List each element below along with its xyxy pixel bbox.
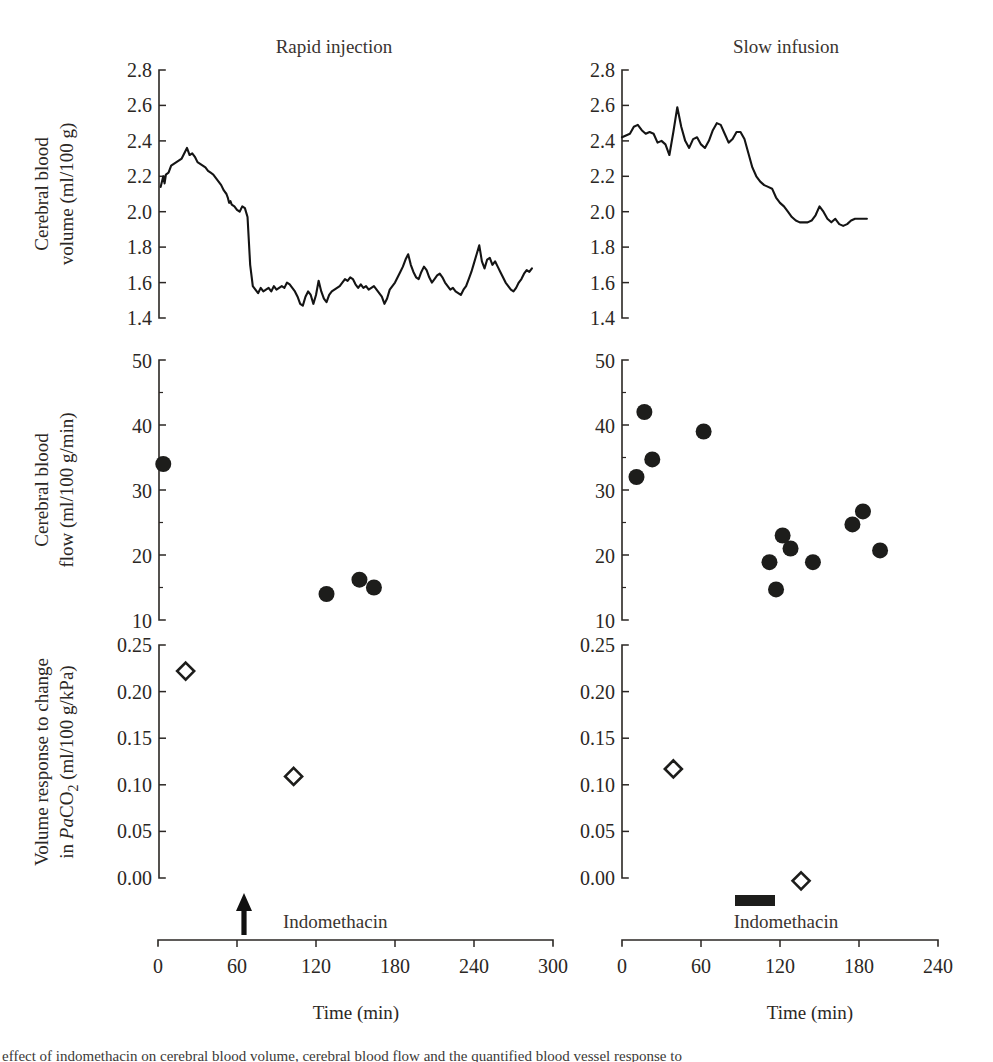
ytick-1.8: 1.8 [590,236,615,258]
xtick-300: 300 [538,955,568,977]
ytick-50: 50 [132,350,152,372]
xtick-120: 120 [301,955,331,977]
chart-cbf-slow: 50 40 30 20 10 [595,350,888,632]
figure-svg: Rapid injection Slow infusion 2.8 2.6 2.… [0,0,993,1062]
cbf-rapid-yticklabels: 50 40 30 20 10 [132,350,152,632]
infusion-duration-bar [735,895,775,906]
chart-cbf-rapid: 50 40 30 20 10 [132,350,382,632]
data-point-circle [805,554,821,570]
data-point-diamond [665,760,682,777]
ytick-20: 20 [132,545,152,567]
data-point-circle [768,581,784,597]
vresp-rapid-yticklabels: 0.25 0.20 0.15 0.10 0.05 0.00 [117,634,152,889]
indomethacin-label-slow: Indomethacin [734,911,839,932]
chart-cbv-rapid: 2.8 2.6 2.4 2.2 2.0 1.8 1.6 1.4 [127,59,532,329]
cbf-axis-title: Cerebral blood flow (ml/100 g/min) [31,412,78,567]
data-point-circle [761,554,777,570]
xtick-0: 0 [617,955,627,977]
xtick-240: 240 [459,955,489,977]
cbv-rapid-yticklabels: 2.8 2.6 2.4 2.2 2.0 1.8 1.6 1.4 [127,59,152,329]
chart-vresp-rapid: 0.25 0.20 0.15 0.10 0.05 0.00 [117,634,302,889]
data-point-circle [855,503,871,519]
vresp-axis-title: Volume response to change in PaCO2 (ml/1… [31,658,81,866]
vresp-rapid-points [177,663,302,785]
cbf-ylabel-line1: Cerebral blood [31,433,52,547]
xaxis-title-rapid: Time (min) [313,1002,399,1024]
ytick-0.25: 0.25 [580,634,615,656]
ytick-10: 10 [595,610,615,632]
ytick-0.05: 0.05 [580,820,615,842]
cbf-ylabel-line2: flow (ml/100 g/min) [56,412,78,567]
xtick-60: 60 [227,955,247,977]
data-point-diamond [793,872,810,889]
ytick-2.8: 2.8 [590,59,615,81]
indomethacin-label-rapid: Indomethacin [283,911,388,932]
xtick-120: 120 [765,955,795,977]
cbv-ylabel-line1: Cerebral blood [31,137,52,251]
ytick-0.25: 0.25 [117,634,152,656]
data-point-circle [696,424,712,440]
ytick-0.00: 0.00 [117,867,152,889]
caption-cutoff-text: effect of indomethacin on cerebral blood… [0,1046,993,1062]
ytick-2.6: 2.6 [590,94,615,116]
data-point-diamond [285,768,302,785]
cbf-rapid-points [155,456,382,602]
ytick-0.10: 0.10 [580,774,615,796]
xaxis-rapid: 0 60 120 180 240 300 Time (min) [153,940,568,1024]
ytick-0.15: 0.15 [117,727,152,749]
ytick-1.4: 1.4 [590,307,615,329]
cbf-slow-yticklabels: 50 40 30 20 10 [595,350,615,632]
ytick-0.20: 0.20 [117,681,152,703]
vresp-slow-yticks [622,692,629,832]
vresp-slow-yticklabels: 0.25 0.20 0.15 0.10 0.05 0.00 [580,634,615,889]
cbv-slow-yticklabels: 2.8 2.6 2.4 2.2 2.0 1.8 1.6 1.4 [590,59,615,329]
cbf-rapid-yticks [159,393,166,588]
ytick-0.05: 0.05 [117,820,152,842]
ytick-0.00: 0.00 [580,867,615,889]
vresp-ylabel-pre: in [56,839,77,859]
caption-cutoff-strip: effect of indomethacin on cerebral blood… [0,1046,993,1062]
vresp-ylabel-co: CO [56,792,77,818]
xaxis-rapid-ticks [237,940,474,947]
data-point-circle [636,404,652,420]
xtick-180: 180 [380,955,410,977]
ytick-50: 50 [595,350,615,372]
data-point-circle [872,542,888,558]
data-point-diamond [177,663,194,680]
xtick-180: 180 [844,955,874,977]
ytick-10: 10 [132,610,152,632]
xaxis-slow-ticklabels: 0 60 120 180 240 [617,955,953,977]
figure-container: Rapid injection Slow infusion 2.8 2.6 2.… [0,0,993,1062]
xtick-240: 240 [923,955,953,977]
ytick-1.4: 1.4 [127,307,152,329]
vresp-ylabel-tail: (ml/100 g/kPa) [56,665,78,784]
ytick-40: 40 [595,415,615,437]
data-point-circle [319,586,335,602]
ytick-1.6: 1.6 [590,272,615,294]
ytick-30: 30 [595,480,615,502]
data-point-circle [628,469,644,485]
ytick-2.0: 2.0 [127,201,152,223]
cbf-slow-yticks [622,393,629,588]
cbv-rapid-yaxis [159,70,165,318]
vresp-ylabel-sub: 2 [66,785,81,792]
ytick-2.2: 2.2 [127,165,152,187]
data-point-circle [783,541,799,557]
data-point-circle [351,572,367,588]
indomethacin-arrow-annotation: Indomethacin [236,893,388,935]
data-point-circle [155,456,171,472]
panel-title-rapid: Rapid injection [276,36,393,57]
ytick-0.15: 0.15 [580,727,615,749]
chart-cbv-slow: 2.8 2.6 2.4 2.2 2.0 1.8 1.6 1.4 [590,59,867,329]
xaxis-slow: 0 60 120 180 240 Time (min) [617,940,953,1024]
cbv-axis-title: Cerebral blood volume (ml/100 g) [31,123,78,265]
cbv-slow-yaxis [622,70,628,318]
cbv-ylabel-line2: volume (ml/100 g) [56,123,78,265]
vresp-rapid-yticks [159,692,166,832]
data-point-circle [644,451,660,467]
vresp-ylabel-line1: Volume response to change [31,658,52,866]
xaxis-title-slow: Time (min) [767,1002,853,1024]
indomethacin-bar-annotation: Indomethacin [734,895,839,932]
up-arrow-icon [236,893,252,935]
xaxis-rapid-ticklabels: 0 60 120 180 240 300 [153,955,568,977]
